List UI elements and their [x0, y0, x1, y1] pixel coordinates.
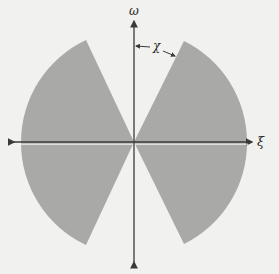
shaded-sector-lower-right [134, 142, 247, 244]
wedge-diagram [0, 0, 279, 274]
shaded-sector-upper-right [134, 41, 247, 142]
chi-angle-label: χ [153, 40, 160, 52]
chi-arrow-left [136, 46, 150, 47]
shaded-sector-lower-left [21, 142, 134, 245]
shaded-sector-upper-left [21, 40, 134, 142]
omega-axis-label: ω [129, 5, 139, 17]
xi-axis-label: ξ [257, 135, 264, 148]
chi-arrow-right [163, 51, 175, 56]
